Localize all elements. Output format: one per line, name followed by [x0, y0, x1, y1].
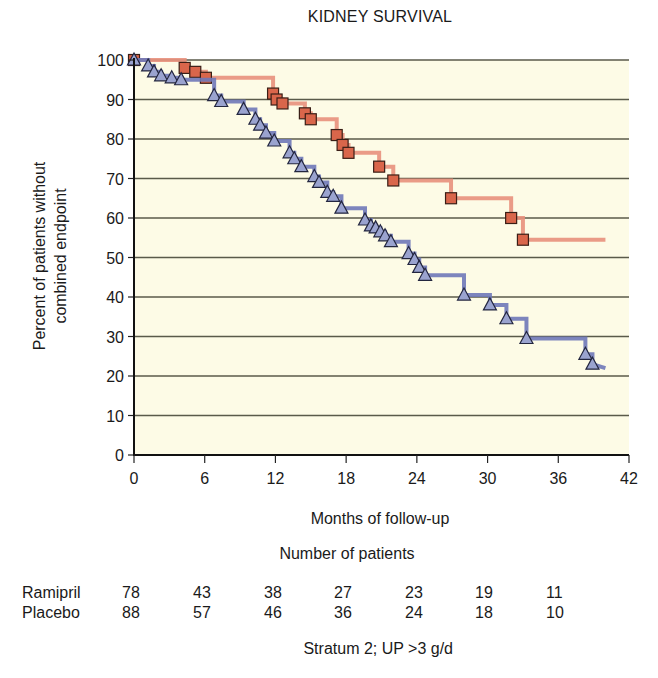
square-marker-icon — [190, 66, 201, 77]
x-tick-label: 12 — [267, 470, 285, 487]
square-marker-icon — [305, 114, 316, 125]
risk-value: 27 — [334, 584, 352, 602]
risk-value: 10 — [546, 604, 564, 622]
square-marker-icon — [388, 175, 399, 186]
y-axis-label-line2: combined endpoint — [52, 188, 69, 324]
km-plot: 010203040506070809010006121824303642 Per… — [0, 0, 658, 500]
y-tick-label: 50 — [106, 250, 124, 267]
risk-row-label: Placebo — [22, 604, 80, 622]
square-marker-icon — [374, 161, 385, 172]
y-tick-label: 20 — [106, 368, 124, 385]
square-marker-icon — [517, 234, 528, 245]
x-tick-label: 36 — [549, 470, 567, 487]
y-tick-label: 0 — [115, 447, 124, 464]
square-marker-icon — [179, 62, 190, 73]
risk-value: 88 — [122, 604, 140, 622]
x-axis-label: Months of follow-up — [0, 510, 658, 528]
risk-value: 36 — [334, 604, 352, 622]
y-tick-label: 10 — [106, 408, 124, 425]
y-tick-label: 100 — [97, 52, 124, 69]
y-tick-label: 70 — [106, 171, 124, 188]
risk-row-label: Ramipril — [22, 584, 81, 602]
x-tick-label: 30 — [479, 470, 497, 487]
x-tick-label: 18 — [337, 470, 355, 487]
y-axis-label: Percent of patients without combined end… — [31, 161, 69, 350]
risk-value: 78 — [122, 584, 140, 602]
risk-value: 24 — [405, 604, 423, 622]
x-tick-label: 0 — [130, 470, 139, 487]
risk-value: 38 — [264, 584, 282, 602]
y-tick-label: 60 — [106, 210, 124, 227]
x-tick-label: 24 — [408, 470, 426, 487]
square-marker-icon — [506, 213, 517, 224]
number-at-risk-title: Number of patients — [0, 545, 658, 563]
x-tick-label: 6 — [200, 470, 209, 487]
y-axis-label-line1: Percent of patients without — [31, 161, 48, 350]
square-marker-icon — [446, 193, 457, 204]
risk-value: 46 — [264, 604, 282, 622]
y-tick-label: 40 — [106, 289, 124, 306]
y-tick-label: 90 — [106, 92, 124, 109]
risk-value: 57 — [193, 604, 211, 622]
x-tick-label: 42 — [620, 470, 638, 487]
square-marker-icon — [343, 147, 354, 158]
risk-value: 11 — [546, 584, 563, 602]
square-marker-icon — [277, 98, 288, 109]
stratum-annotation: Stratum 2; UP >3 g/d — [303, 640, 453, 658]
risk-value: 18 — [475, 604, 493, 622]
risk-value: 19 — [475, 584, 493, 602]
risk-value: 23 — [405, 584, 423, 602]
risk-value: 43 — [193, 584, 211, 602]
y-tick-label: 80 — [106, 131, 124, 148]
y-tick-label: 30 — [106, 329, 124, 346]
